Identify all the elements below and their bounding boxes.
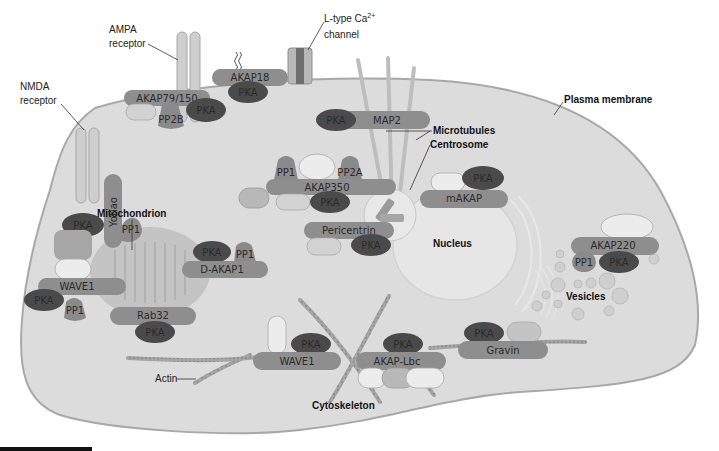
ampa-receptor-label-line1: AMPA [109,24,137,35]
d-akap1-pp1-label: PP1 [236,249,254,260]
vesicles-label: Vesicles [566,291,606,302]
lipid-anchor-icon [235,52,242,70]
centrosome-label: Centrosome [430,139,489,150]
l-type-calcium-channel [288,48,312,84]
akap79-pp2b-label: PP2B [158,114,183,125]
yotiao-pp1-label: PP1 [122,224,140,235]
d-akap1-label: D-AKAP1 [200,264,244,275]
rab32-pka-label: PKA [145,327,164,338]
l-type-channel-label-line1: L-type Ca2+ [324,12,375,24]
makap-label: mAKAP [446,193,482,204]
yotiao-pka-label: PKA [73,220,92,231]
rab32-label: Rab32 [137,310,169,321]
pericentrin-pka-label: PKA [361,240,380,251]
wave1-actin-pka-label: PKA [301,339,320,350]
gravin-label: Gravin [486,345,519,356]
actin-label: Actin [155,373,177,384]
wave1-mito-pka-label: PKA [34,295,53,306]
nucleus-label: Nucleus [433,238,472,249]
akap-lbc-pka-label: PKA [393,339,412,350]
cytoskeleton-label: Cytoskeleton [312,400,375,411]
wave1-actin-label: WAVE1 [279,356,314,367]
l-type-text: L-type Ca [324,13,368,24]
akap-lbc-label: AKAP-Lbc [374,356,421,367]
wave1-mito-label: WAVE1 [59,281,94,292]
mitochondrion-label: Mitochondrion [97,208,166,219]
akap220-label: AKAP220 [590,240,635,251]
akap18-pka-label: PKA [238,87,257,98]
akap220-pka-label: PKA [609,257,628,268]
microtubules-label: Microtubules [433,125,496,136]
plasma-membrane-label: Plasma membrane [564,94,653,105]
d-akap1-pka-label: PKA [202,247,221,258]
akap79-pka-label: PKA [196,105,215,116]
ampa-receptor-label-line2: receptor [109,38,146,49]
wave1-mito-pp1-label: PP1 [66,305,84,316]
akap350-pp1-label: PP1 [277,167,295,178]
akap-cell-diagram: Yotiao PKA PP1 AKAP79/150 PP2B PKA AKAP1… [0,0,719,451]
akap350-pp2a-label: PP2A [337,167,362,178]
nmda-receptor-label-line1: NMDA [20,81,50,92]
map2-label: MAP2 [373,115,401,126]
l-type-superscript: 2+ [367,12,375,19]
l-type-channel-label-line2: channel [324,29,359,40]
makap-pka-label: PKA [473,173,492,184]
page-edge-bar [0,447,92,451]
nmda-receptor-label-line2: receptor [20,95,57,106]
gravin-pka-label: PKA [474,328,493,339]
map2-complex: MAP2 PKA [316,109,430,131]
map2-pka-label: PKA [326,115,345,126]
akap220-pp1-label: PP1 [575,257,593,268]
akap350-pka-label: PKA [320,197,339,208]
